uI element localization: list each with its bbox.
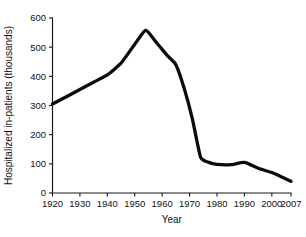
axis-ticks <box>49 18 291 197</box>
x-tick-label-1970: 1970 <box>179 198 200 209</box>
chart-figure: 1920193019401950196019701980199020002007… <box>0 0 306 237</box>
x-tick-label-1990: 1990 <box>234 198 255 209</box>
y-tick-label-0: 0 <box>41 187 46 198</box>
x-tick-label-1920: 1920 <box>42 198 63 209</box>
data-series <box>53 30 292 181</box>
x-tick-label-2000: 2000 <box>261 198 282 209</box>
x-tick-label-1980: 1980 <box>206 198 227 209</box>
y-tick-label-300: 300 <box>30 100 46 111</box>
x-tick-label-2007: 2007 <box>280 198 301 209</box>
line-chart: 1920193019401950196019701980199020002007… <box>0 0 306 237</box>
y-tick-label-100: 100 <box>30 158 46 169</box>
series-line-0 <box>53 30 292 181</box>
x-tick-label-1930: 1930 <box>69 198 90 209</box>
x-tick-label-1960: 1960 <box>152 198 173 209</box>
y-tick-label-600: 600 <box>30 12 46 23</box>
x-tick-label-1940: 1940 <box>97 198 118 209</box>
x-tick-labels: 1920193019401950196019701980199020002007 <box>42 198 302 209</box>
y-tick-label-400: 400 <box>30 71 46 82</box>
y-tick-label-500: 500 <box>30 42 46 53</box>
x-tick-label-1950: 1950 <box>124 198 145 209</box>
y-tick-label-200: 200 <box>30 129 46 140</box>
x-axis-title: Year <box>162 214 183 225</box>
y-axis-title: Hospitalized in-patients (thousands) <box>3 26 14 185</box>
y-tick-labels: 0100200300400500600 <box>30 12 46 198</box>
